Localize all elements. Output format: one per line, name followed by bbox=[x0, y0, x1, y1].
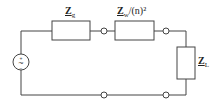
terminal-bottom-1 bbox=[101, 92, 107, 98]
terminal-top-2 bbox=[163, 28, 169, 34]
label-zg: Zg bbox=[65, 5, 75, 19]
circuit-drawing: + ~ − bbox=[0, 0, 219, 106]
terminal-top-1 bbox=[101, 28, 107, 34]
zg-box bbox=[52, 21, 90, 40]
terminal-bottom-2 bbox=[163, 92, 169, 98]
circuit-diagram: + ~ − Zg Zw/(n)² ZL bbox=[0, 0, 219, 106]
label-zw: Zw/(n)² bbox=[117, 5, 146, 19]
zw-box bbox=[115, 21, 154, 40]
zl-box bbox=[177, 47, 195, 79]
label-zl: ZL bbox=[198, 55, 209, 69]
svg-text:−: − bbox=[20, 65, 23, 71]
